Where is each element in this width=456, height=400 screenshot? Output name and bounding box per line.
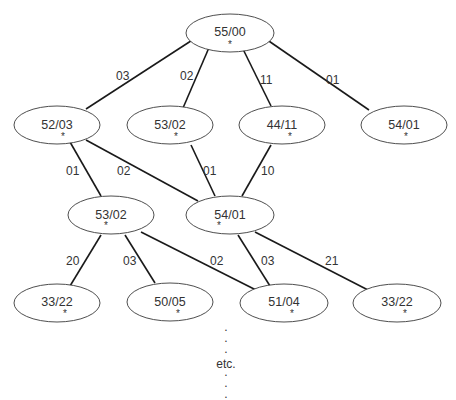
- edge-label-m2-b4: 21: [325, 254, 339, 268]
- node-label: 53/02: [154, 118, 185, 132]
- ellipsis-dot: .: [224, 342, 227, 356]
- node-mark: *: [174, 131, 178, 142]
- edge-label-n2-m2: 01: [203, 164, 217, 178]
- edge-label-root-n2: 02: [180, 69, 194, 83]
- node-b3: 51/04 *: [240, 284, 328, 322]
- ellipsis-dot: .: [224, 387, 227, 400]
- edge-label-root-n3: 11: [260, 73, 273, 87]
- node-mark: *: [404, 131, 408, 142]
- edge-label-root-n1: 03: [116, 69, 130, 83]
- node-mark: *: [288, 131, 292, 142]
- node-b1: 33/22 *: [14, 284, 100, 322]
- edge-label-root-n4: 01: [326, 73, 340, 87]
- edges: [70, 37, 369, 290]
- edge-label-n3-m2: 10: [261, 164, 275, 178]
- edge-labels: 03 02 11 01 01 02 01 10 20 03 02 03 21: [66, 69, 340, 268]
- edge-n1-m2: [86, 140, 198, 201]
- node-n3: 44/11 *: [239, 106, 325, 144]
- node-b4: 33/22 *: [353, 284, 441, 322]
- node-n4: 54/01 *: [361, 106, 447, 144]
- node-root: 55/00 *: [186, 14, 274, 52]
- node-mark: *: [61, 131, 65, 142]
- edge-label-n1-m2: 02: [117, 164, 131, 178]
- node-mark: *: [104, 220, 108, 231]
- node-n1: 52/03 *: [14, 106, 100, 144]
- node-label: 54/01: [388, 118, 419, 132]
- node-label: 51/04: [268, 295, 299, 309]
- node-label: 55/00: [214, 25, 245, 39]
- edge-root-n4: [263, 37, 369, 110]
- node-mark: *: [176, 308, 180, 319]
- node-label: 50/05: [154, 295, 185, 309]
- edge-label-m2-b3: 03: [261, 254, 275, 268]
- continuation: . . . etc. . . .: [216, 320, 235, 400]
- node-mark: *: [403, 308, 407, 319]
- node-label: 44/11: [267, 118, 297, 132]
- node-m1: 53/02 *: [68, 196, 154, 234]
- edge-label-m1-b1: 20: [66, 254, 80, 268]
- edge-m1-b3: [141, 232, 256, 290]
- node-label: 33/22: [41, 295, 72, 309]
- node-mark: *: [217, 220, 221, 231]
- node-mark: *: [63, 308, 67, 319]
- search-tree-diagram: 03 02 11 01 01 02 01 10 20 03 02 03 21 5…: [0, 0, 456, 400]
- node-mark: *: [290, 308, 294, 319]
- node-mark: *: [228, 39, 232, 50]
- edge-label-m1-b2: 03: [123, 254, 137, 268]
- edge-label-m1-b3: 02: [210, 254, 224, 268]
- node-label: 52/03: [41, 118, 72, 132]
- edge-label-n1-m1: 01: [66, 164, 80, 178]
- node-label: 53/02: [95, 208, 126, 222]
- node-m2: 54/01 *: [186, 196, 274, 234]
- node-b2: 50/05 *: [127, 283, 213, 321]
- node-n2: 53/02 *: [127, 106, 213, 144]
- node-label: 33/22: [381, 295, 412, 309]
